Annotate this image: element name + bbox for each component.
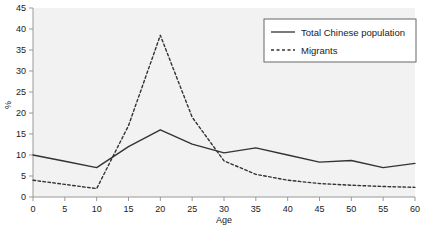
y-tick-label: 5 <box>21 171 26 181</box>
x-tick-label: 40 <box>283 204 293 214</box>
y-tick-label: 45 <box>16 3 26 13</box>
y-tick-label: 10 <box>16 150 26 160</box>
x-tick-label: 60 <box>410 204 420 214</box>
x-axis-label: Age <box>216 215 232 225</box>
legend-label-migrants: Migrants <box>301 45 338 56</box>
y-tick-label: 15 <box>16 129 26 139</box>
x-tick-label: 30 <box>219 204 229 214</box>
x-tick-label: 20 <box>155 204 165 214</box>
line-chart: 051015202530354045 051015202530354045505… <box>0 0 426 230</box>
chart-legend: Total Chinese population Migrants <box>264 19 416 62</box>
legend-label-total-chinese-population: Total Chinese population <box>301 27 405 38</box>
x-tick-label: 10 <box>92 204 102 214</box>
x-tick-label: 55 <box>378 204 388 214</box>
x-tick-label: 25 <box>187 204 197 214</box>
y-axis-label: % <box>3 101 13 109</box>
y-tick-label: 40 <box>16 24 26 34</box>
x-tick-label: 45 <box>314 204 324 214</box>
y-tick-label: 25 <box>16 87 26 97</box>
chart-container: 051015202530354045 051015202530354045505… <box>0 0 426 230</box>
x-tick-label: 0 <box>30 204 35 214</box>
x-tick-label: 15 <box>123 204 133 214</box>
y-tick-label: 30 <box>16 66 26 76</box>
x-tick-label: 50 <box>346 204 356 214</box>
y-tick-label: 0 <box>21 192 26 202</box>
y-tick-label: 35 <box>16 45 26 55</box>
y-tick-label: 20 <box>16 108 26 118</box>
x-tick-label: 5 <box>62 204 67 214</box>
legend-box <box>264 19 416 62</box>
x-tick-label: 35 <box>251 204 261 214</box>
